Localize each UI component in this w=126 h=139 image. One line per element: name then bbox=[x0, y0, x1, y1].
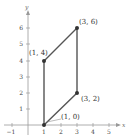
x-tick-label: 4 bbox=[91, 128, 95, 135]
y-tick-label: 5 bbox=[19, 40, 23, 47]
parallelogram-shape bbox=[44, 28, 77, 125]
y-axis-arrow-icon bbox=[26, 10, 30, 15]
y-tick-label: 1 bbox=[19, 105, 23, 112]
parallelogram-chart: x y −1 1 2 3 4 5 1 2 3 4 5 6 bbox=[0, 0, 126, 139]
x-tick-label: 5 bbox=[107, 128, 111, 135]
y-tick-label: 4 bbox=[19, 57, 23, 64]
point-label-3-6: (3, 6) bbox=[79, 18, 98, 26]
x-tick-label: 3 bbox=[75, 128, 79, 135]
y-tick-label: 6 bbox=[19, 24, 23, 31]
point-label-3-2: (3, 2) bbox=[81, 95, 100, 103]
vertex-point bbox=[42, 59, 46, 63]
point-label-1-0: (1, 0) bbox=[61, 113, 80, 121]
point-label-1-4: (1, 4) bbox=[29, 49, 48, 57]
x-tick-labels: −1 1 2 3 4 5 bbox=[7, 128, 112, 135]
y-axis-label: y bbox=[24, 3, 29, 11]
vertex-point bbox=[75, 26, 79, 30]
x-tick-label: −1 bbox=[7, 128, 16, 135]
y-tick-label: 3 bbox=[19, 73, 23, 80]
x-tick-label: 1 bbox=[42, 128, 46, 135]
x-axis-label: x bbox=[122, 121, 126, 128]
vertex-point bbox=[75, 91, 79, 95]
x-axis-arrow-icon bbox=[116, 123, 121, 127]
y-tick-label: 2 bbox=[19, 89, 23, 96]
vertex-point bbox=[42, 123, 46, 127]
y-tick-labels: 1 2 3 4 5 6 bbox=[19, 24, 23, 112]
vertices bbox=[42, 26, 79, 127]
x-tick-label: 2 bbox=[59, 128, 63, 135]
